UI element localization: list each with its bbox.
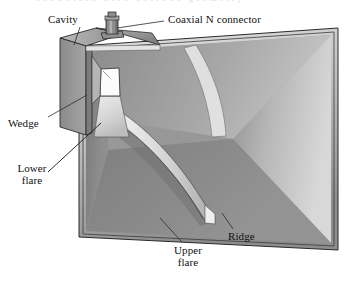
horn-body xyxy=(79,28,338,250)
throat-opening xyxy=(100,68,120,96)
throat-rect xyxy=(100,68,120,96)
label-lower-flare-line1: Lower xyxy=(17,162,46,174)
cavity-front-face xyxy=(60,38,86,135)
horn-antenna-figure: bandwidth horn antenna geometry xyxy=(0,0,346,281)
cavity-frame-strip xyxy=(86,45,160,51)
label-lower-flare-line2: flare xyxy=(22,174,43,186)
label-lower-flare: Lower flare xyxy=(10,163,54,187)
label-upper-flare: Upper flare xyxy=(167,245,209,269)
coax-tip xyxy=(108,12,116,17)
label-cavity: Cavity xyxy=(48,14,78,26)
leader-coaxial-n-connector xyxy=(117,21,164,28)
label-ridge: Ridge xyxy=(228,231,255,243)
cavity-right-face xyxy=(86,44,92,135)
label-upper-flare-line1: Upper xyxy=(174,244,202,256)
label-coaxial-n-connector: Coaxial N connector xyxy=(168,14,261,26)
label-upper-flare-line2: flare xyxy=(178,256,199,268)
antenna-illustration xyxy=(0,0,346,281)
coax-connector xyxy=(101,12,124,39)
label-wedge: Wedge xyxy=(8,118,39,130)
